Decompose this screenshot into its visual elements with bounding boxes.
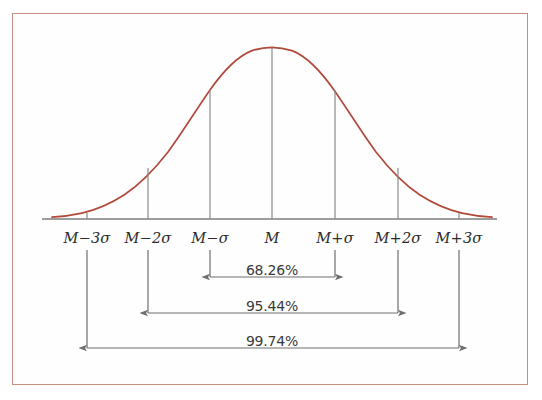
axis-tick-label-m-1sigma: M−σ [191,230,229,246]
axis-tick-label-m-2sigma: M−2σ [125,230,172,246]
diagram-canvas: M−3σ M−2σ M−σ M M+σ M+2σ M+3σ 68.26% 95.… [0,0,542,400]
sigma-tick-lines [87,48,459,220]
axis-tick-label-p-1sigma: M+σ [316,230,354,246]
axis-tick-label-m: M [264,230,279,246]
axis-tick-label-p-2sigma: M+2σ [375,230,422,246]
axis-tick-label-p-3sigma: M+3σ [436,230,483,246]
axis-tick-label-m-3sigma: M−3σ [64,230,111,246]
band-label-99: 99.74% [246,333,298,349]
band-label-68: 68.26% [246,262,298,278]
band-label-95: 95.44% [246,298,298,314]
